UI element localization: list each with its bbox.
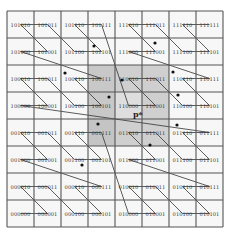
cell-code-label: 011011 [146,130,166,136]
cell-code-label: 111010 [119,22,139,28]
query-point-label: p* [133,109,144,119]
cell-code-label: 101011 [38,22,58,28]
data-point [80,163,83,166]
data-point [120,78,123,81]
cell-code-label: 000110 [65,184,85,190]
cell-code-label: 010100 [173,211,193,217]
cell-code-label: 001000 [11,157,31,163]
cell-code-label: 010001 [146,211,166,217]
cell-code-label: 001011 [38,130,58,136]
cell-code-label: 110111 [200,76,220,82]
cell-code-label: 111001 [146,49,166,55]
z-order-grid-diagram: 1010101010111011101011111110101110111111… [0,0,229,236]
cell-code-label: 101110 [65,22,85,28]
cell-code-label: 100110 [65,76,85,82]
cell-code-label: 100111 [92,76,112,82]
cell-code-label: 101111 [92,22,112,28]
cell-code-label: 100101 [92,103,112,109]
cell-code-label: 100100 [65,103,85,109]
cell-code-label: 101010 [11,22,31,28]
cell-code-label: 110011 [146,76,166,82]
data-point [96,122,99,125]
cell-code-label: 100011 [38,76,58,82]
cell-code-label: 000100 [65,211,85,217]
cell-code-label: 001001 [38,157,58,163]
cell-code-label: 110001 [146,103,166,109]
cell-code-label: 011001 [146,157,166,163]
cell-code-label: 100000 [11,103,31,109]
cell-code-label: 001110 [65,130,85,136]
cell-code-label: 111000 [119,49,139,55]
cell-code-label: 001101 [92,157,112,163]
cell-code-label: 000001 [38,211,58,217]
cell-code-label: 111100 [173,49,193,55]
cell-code-label: 011100 [173,157,193,163]
cell-code-label: 011111 [200,130,220,136]
cell-code-label: 110110 [173,76,193,82]
cell-code-label: 000111 [92,184,112,190]
cell-code-label: 010010 [119,184,139,190]
cell-code-label: 110000 [119,103,139,109]
cell-code-label: 000011 [38,184,58,190]
cell-code-label: 101000 [11,49,31,55]
cell-code-label: 011000 [119,157,139,163]
data-point [175,123,178,126]
cell-code-label: 010111 [200,184,220,190]
data-point [171,70,174,73]
cell-code-label: 101001 [38,49,58,55]
cell-code-label: 100001 [38,103,58,109]
cell-code-label: 111101 [200,49,220,55]
cell-code-label: 011101 [200,157,220,163]
cell-code-label: 101100 [65,49,85,55]
cell-code-label: 010011 [146,184,166,190]
cell-code-label: 001010 [11,130,31,136]
cell-code-label: 010000 [119,211,139,217]
cell-code-label: 000010 [11,184,31,190]
data-point [63,71,66,74]
cell-code-label: 100010 [11,76,31,82]
cell-code-label: 111111 [200,22,220,28]
cell-code-label: 101101 [92,49,112,55]
cell-code-label: 011010 [119,130,139,136]
cell-code-label: 000101 [92,211,112,217]
data-point [92,44,95,47]
cell-code-label: 111011 [146,22,166,28]
cell-code-label: 000000 [11,211,31,217]
data-point [107,95,110,98]
cell-code-label: 001100 [65,157,85,163]
data-point [176,93,179,96]
cell-code-label: 001111 [92,130,112,136]
cell-code-label: 010101 [200,211,220,217]
cell-code-label: 111110 [173,22,193,28]
data-point [148,143,151,146]
cell-code-label: 110100 [173,103,193,109]
data-point [153,41,156,44]
cell-code-label: 011110 [173,130,193,136]
cell-code-label: 010110 [173,184,193,190]
cell-code-label: 110101 [200,103,220,109]
